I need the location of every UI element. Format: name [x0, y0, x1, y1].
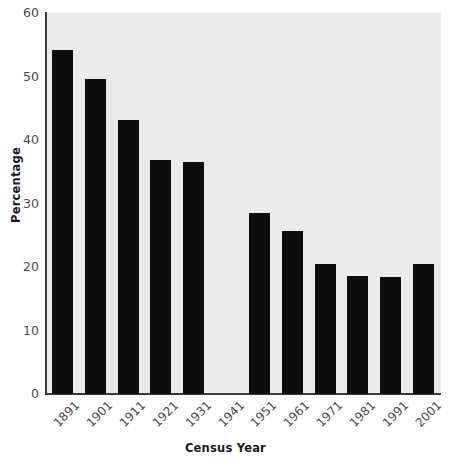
bar-chart-figure: 0102030405060 18911901191119211931194119… [0, 0, 451, 468]
y-tick-label: 20 [0, 261, 45, 274]
y-tick-label: 0 [0, 388, 45, 401]
y-tick-label: 10 [0, 324, 45, 337]
x-axis-title: Census Year [0, 441, 451, 455]
y-tick-label: 60 [0, 7, 45, 20]
y-tick-label: 50 [0, 70, 45, 83]
x-axis-tick-labels: 1891190119111921193119411951196119711981… [47, 0, 441, 468]
y-axis-title: Percentage [9, 125, 23, 245]
